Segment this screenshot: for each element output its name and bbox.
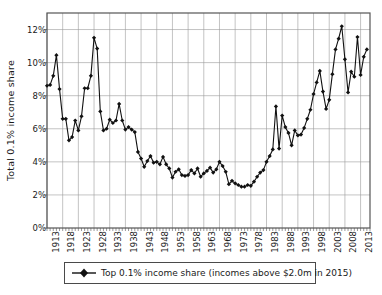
- x-axis-tick-label: 1963: [207, 231, 217, 253]
- x-axis-tick-label: 1948: [160, 231, 170, 253]
- x-axis-tick-label: 1943: [145, 231, 155, 253]
- x-axis-tick-label: 1918: [66, 231, 76, 253]
- x-axis-tick-label: 1953: [176, 231, 186, 253]
- x-axis-tick-label: 1913: [51, 231, 61, 253]
- x-axis-tick-label: 1958: [192, 231, 202, 253]
- x-axis-tick-label: 2008: [348, 231, 358, 253]
- x-axis-tick-label: 1938: [129, 231, 139, 253]
- x-axis-tick-label: 2013: [364, 231, 374, 253]
- x-axis-tick-label: 1973: [239, 231, 249, 253]
- x-axis-tick-label: 1978: [254, 231, 264, 253]
- x-axis-tick-label: 1988: [286, 231, 296, 253]
- x-axis-tick-label: 1928: [98, 231, 108, 253]
- chart-figure: Total 0.1% income share 0%2%4%6%8%10%12%…: [0, 0, 382, 295]
- legend-marker-icon: [71, 267, 97, 279]
- x-axis-tick-label: 1998: [317, 231, 327, 253]
- x-axis-tick-label: 1968: [223, 231, 233, 253]
- legend-entry-label: Top 0.1% income share (incomes above $2.…: [101, 268, 352, 278]
- chart-legend: Top 0.1% income share (incomes above $2.…: [64, 262, 316, 284]
- x-axis-tick-label: 1933: [113, 231, 123, 253]
- x-axis-tick-label: 1983: [270, 231, 280, 253]
- x-axis-tick-label: 1923: [82, 231, 92, 253]
- x-axis-tick-label: 1993: [301, 231, 311, 253]
- x-axis-tick-label: 2003: [333, 231, 343, 253]
